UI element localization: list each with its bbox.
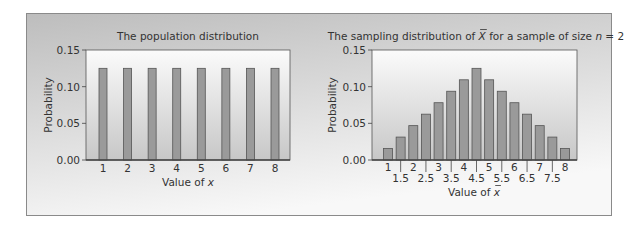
- population-x-tick-label: 6: [223, 162, 230, 174]
- sampling-bar-3_5: [447, 91, 456, 160]
- population-bar-1: [99, 68, 107, 160]
- sampling-bar-6: [510, 103, 519, 160]
- sampling-x-tick-label-lower: 6.5: [519, 172, 536, 184]
- sampling-x-tick-label-lower: 5.5: [493, 172, 510, 184]
- sampling-x-tick-label-upper: 6: [511, 161, 518, 173]
- population-x-axis-label-prefix: Value of: [162, 176, 208, 188]
- population-x-tick-label: 7: [247, 162, 254, 174]
- sampling-x-tick-label-upper: 2: [410, 161, 417, 173]
- population-x-tick-label: 2: [124, 162, 131, 174]
- population-bar-5: [197, 68, 205, 160]
- sampling-bar-6_5: [523, 114, 532, 160]
- sampling-x-tick-label-lower: 2.5: [418, 172, 435, 184]
- sampling-bar-2_5: [421, 114, 430, 160]
- sampling-y-tick-label: 0.10: [343, 81, 366, 93]
- sampling-bar-1: [384, 149, 393, 160]
- population-y-tick-label: 0.15: [57, 44, 80, 56]
- population-y-tick-label: 0.05: [57, 117, 80, 129]
- sampling-x-tick-label-upper: 4: [461, 161, 468, 173]
- sampling-y-tick-label: 0.05: [343, 117, 366, 129]
- sampling-bar-7: [535, 126, 544, 160]
- sampling-title-prefix: The sampling distribution of: [327, 30, 479, 42]
- sampling-x-tick-label-lower: 4.5: [468, 172, 485, 184]
- sampling-bar-1_5: [396, 137, 405, 160]
- population-bar-4: [173, 68, 181, 160]
- population-y-axis-label: Probability: [42, 77, 54, 133]
- population-y-tick-label: 0.10: [57, 81, 80, 93]
- sampling-x-axis-label-xbar: x: [493, 186, 501, 198]
- figure: The population distribution 0.000.050.10…: [0, 0, 637, 230]
- sampling-x-tick-label-upper: 5: [486, 161, 493, 173]
- population-x-tick-label: 5: [198, 162, 205, 174]
- sampling-x-axis-label: Value of x: [448, 186, 501, 198]
- sampling-y-tick-label: 0.15: [343, 44, 366, 56]
- sampling-x-tick-label-lower: 1.5: [392, 172, 409, 184]
- sampling-x-tick-label-lower: 3.5: [443, 172, 460, 184]
- population-x-tick-label: 4: [173, 162, 180, 174]
- population-x-axis-label-var: x: [207, 176, 215, 188]
- population-bar-6: [222, 68, 230, 160]
- sampling-x-tick-label-upper: 3: [435, 161, 442, 173]
- population-plot-area: [86, 50, 290, 160]
- sampling-bar-5: [485, 80, 494, 160]
- sampling-x-axis-label-prefix: Value of: [448, 186, 494, 198]
- sampling-x-tick-label-upper: 7: [536, 161, 543, 173]
- population-x-axis-label: Value of x: [162, 176, 215, 188]
- sampling-bar-7_5: [548, 137, 557, 160]
- population-chart-title: The population distribution: [116, 30, 259, 42]
- population-bar-7: [246, 68, 254, 160]
- sampling-bar-2: [409, 126, 418, 160]
- sampling-x-tick-label-lower: 7.5: [544, 172, 561, 184]
- population-x-tick-label: 8: [272, 162, 279, 174]
- sampling-title-suffix: = 2: [602, 30, 624, 42]
- population-bar-2: [124, 68, 132, 160]
- sampling-x-tick-label-upper: 1: [385, 161, 392, 173]
- sampling-bar-4_5: [472, 68, 481, 160]
- population-x-tick-label: 3: [149, 162, 156, 174]
- sampling-title-n: n: [595, 30, 602, 42]
- sampling-bar-3: [434, 103, 443, 160]
- sampling-y-tick-label: 0.00: [343, 154, 366, 166]
- sampling-y-axis-label: Probability: [326, 77, 338, 133]
- sampling-chart-title: The sampling distribution of X for a sam…: [327, 30, 624, 42]
- sampling-title-middle: for a sample of size: [486, 30, 596, 42]
- population-x-tick-label: 1: [100, 162, 107, 174]
- population-bar-8: [271, 68, 279, 160]
- sampling-bar-4: [459, 80, 468, 160]
- sampling-x-tick-label-upper: 8: [562, 161, 569, 173]
- sampling-bar-5_5: [497, 91, 506, 160]
- sampling-bar-8: [561, 149, 570, 160]
- population-y-tick-label: 0.00: [57, 154, 80, 166]
- population-bar-3: [148, 68, 156, 160]
